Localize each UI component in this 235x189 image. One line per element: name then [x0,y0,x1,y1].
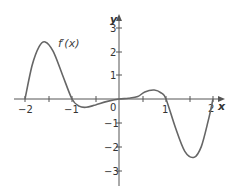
x-tick-label: −1 [64,104,79,115]
chart-canvas: −2 −1 0 1 2 3 2 1 −1 −2 −3 y x f′(x) [0,0,235,189]
y-tick-label: −2 [104,142,119,153]
x-tick-label: 1 [162,104,168,115]
y-tick-label: 1 [110,70,116,81]
x-tick-label: −2 [18,104,33,115]
y-tick-label: −1 [104,118,119,129]
y-tick-label: 2 [110,47,116,58]
x-axis-label: x [217,100,226,113]
y-tick-label: −3 [104,166,119,177]
curve-label: f′(x) [58,37,79,50]
x-tick-label: 0 [110,102,116,113]
y-axis-label: y [110,13,118,26]
